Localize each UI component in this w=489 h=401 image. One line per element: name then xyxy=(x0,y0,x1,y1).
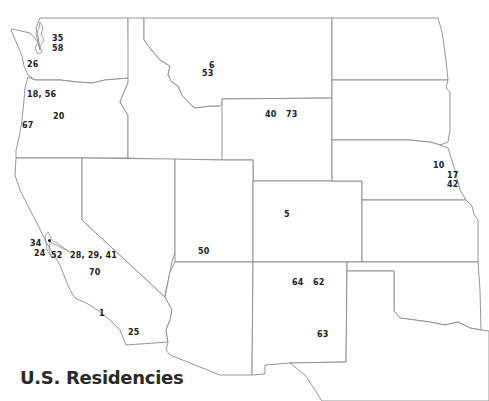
residency-label-co-5: 5 xyxy=(284,210,290,219)
residency-label-or-67: 67 xyxy=(22,121,34,130)
residency-label-ca-52: 52 xyxy=(51,251,63,260)
us-west-map xyxy=(0,0,489,401)
residency-label-wa-26: 26 xyxy=(27,60,39,69)
state-north-dakota xyxy=(332,18,448,80)
state-south-dakota xyxy=(332,80,450,145)
residency-label-ca-1: 1 xyxy=(99,309,105,318)
residency-label-wy-40: 40 xyxy=(265,110,277,119)
residency-label-ne-10: 10 xyxy=(433,161,445,170)
residency-label-nm-64: 64 xyxy=(292,278,304,287)
residency-label-nm-63: 63 xyxy=(317,330,329,339)
residency-label-or-18-56: 18, 56 xyxy=(27,90,56,99)
state-colorado xyxy=(253,181,362,262)
state-kansas xyxy=(362,200,478,262)
residency-label-wy-73: 73 xyxy=(286,110,298,119)
state-utah xyxy=(175,159,253,262)
state-arizona xyxy=(165,262,253,375)
residency-label-wa-58: 58 xyxy=(52,44,64,53)
state-washington xyxy=(11,18,129,83)
residency-label-ca-28-29-41: 28, 29, 41 xyxy=(70,251,117,260)
residency-label-ut-50: 50 xyxy=(198,247,210,256)
residency-label-ca-70: 70 xyxy=(89,268,101,277)
residency-label-ca-34: 34 xyxy=(30,239,42,248)
residency-label-or-20: 20 xyxy=(53,112,65,121)
map-title: U.S. Residencies xyxy=(20,367,183,388)
residency-label-ca-25: 25 xyxy=(128,328,140,337)
residency-label-mt-53: 53 xyxy=(202,69,214,78)
residency-label-ca-24: 24 xyxy=(34,249,46,258)
residency-label-wa-35: 35 xyxy=(52,34,64,43)
residency-label-nm-62: 62 xyxy=(313,278,325,287)
residency-label-ne-17: 17 xyxy=(447,171,459,180)
sf-bay-marker xyxy=(48,239,51,242)
residency-label-ne-42: 42 xyxy=(447,180,459,189)
